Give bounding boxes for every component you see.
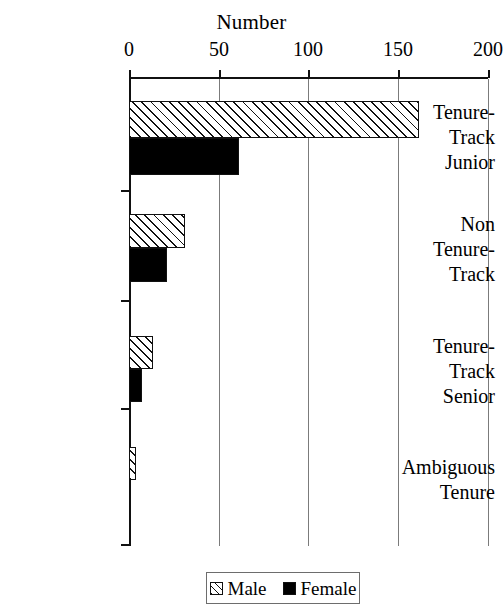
bar-male-tenure-track-junior	[129, 101, 419, 138]
category-label-line: Ambiguous	[383, 455, 495, 480]
x-tick-label-100: 100	[278, 38, 338, 61]
bar-female-tenure-track-senior	[129, 369, 142, 402]
chart-title: Number	[0, 10, 503, 35]
gridline-100	[308, 79, 309, 546]
x-tick-label-150: 150	[368, 38, 428, 61]
category-label-line: Tenure-	[383, 237, 495, 262]
solid-black-swatch-icon	[283, 582, 296, 595]
bar-male-non-tenure-track	[129, 214, 185, 248]
category-label-tenure-track-senior: Tenure- Track Senior	[383, 334, 503, 409]
category-label-line: Non	[383, 212, 495, 237]
category-label-non-tenure-track: Non Tenure- Track	[383, 212, 503, 287]
bar-male-ambiguous-tenure	[129, 447, 136, 480]
bar-female-tenure-track-junior	[129, 138, 239, 175]
legend-label-male: Male	[228, 579, 267, 598]
y-tick-mark-4	[121, 544, 130, 546]
category-label-line: Tenure	[383, 480, 495, 505]
category-label-ambiguous-tenure: Ambiguous Tenure	[383, 455, 503, 505]
category-label-line: Track	[383, 262, 495, 287]
bar-male-tenure-track-senior	[129, 336, 153, 369]
y-tick-mark-2	[121, 300, 130, 302]
category-label-line: Junior	[383, 150, 495, 175]
category-label-line: Senior	[383, 384, 495, 409]
x-tick-label-50: 50	[189, 38, 249, 61]
y-tick-mark-3	[121, 408, 130, 410]
legend-label-female: Female	[301, 579, 357, 598]
x-tick-label-200: 200	[458, 38, 503, 61]
x-tick-mark-200	[488, 70, 490, 78]
legend: Male Female	[206, 572, 360, 604]
category-label-line: Track	[383, 359, 495, 384]
category-label-line: Tenure-	[383, 334, 495, 359]
legend-item-female: Female	[283, 579, 357, 598]
hatched-swatch-icon	[210, 582, 223, 595]
x-tick-label-0: 0	[99, 38, 159, 61]
bar-female-non-tenure-track	[129, 248, 167, 282]
y-tick-mark-1	[121, 190, 130, 192]
bar-chart: Number 0 50 100 150 200 Tenure- Track Ju…	[0, 0, 503, 611]
legend-item-male: Male	[210, 579, 267, 598]
